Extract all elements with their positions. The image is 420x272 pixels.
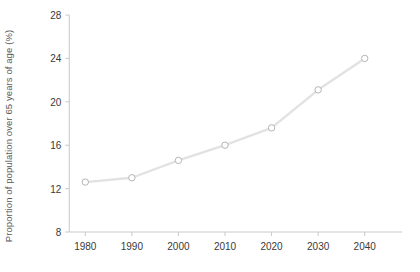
x-tick-label: 2010 [205,241,245,252]
data-point-markers [82,55,368,185]
data-point-marker [268,125,274,131]
data-point-marker [129,175,135,181]
x-tick-label: 1990 [112,241,152,252]
plot-area: 81216202428 1980199020002010202020302040 [0,0,420,272]
x-tick-label: 2040 [345,241,385,252]
x-tick-label: 2030 [298,241,338,252]
x-tick-label: 2000 [158,241,198,252]
x-tick-label: 1980 [65,241,105,252]
chart-container: Proportion of population over 65 years o… [0,0,420,272]
data-point-marker [82,179,88,185]
data-series-line [85,58,364,182]
data-point-marker [362,55,368,61]
y-tick-label: 12 [37,183,61,194]
y-tick-label: 8 [37,227,61,238]
data-point-marker [175,157,181,163]
y-tick-label: 20 [37,96,61,107]
series-line [85,58,364,182]
y-tick-label: 16 [37,140,61,151]
chart-svg [0,0,420,272]
x-tick-label: 2020 [252,241,292,252]
y-tick-label: 28 [37,10,61,21]
data-point-marker [315,87,321,93]
y-tick-label: 24 [37,53,61,64]
axes-group [65,15,402,236]
data-point-marker [222,142,228,148]
